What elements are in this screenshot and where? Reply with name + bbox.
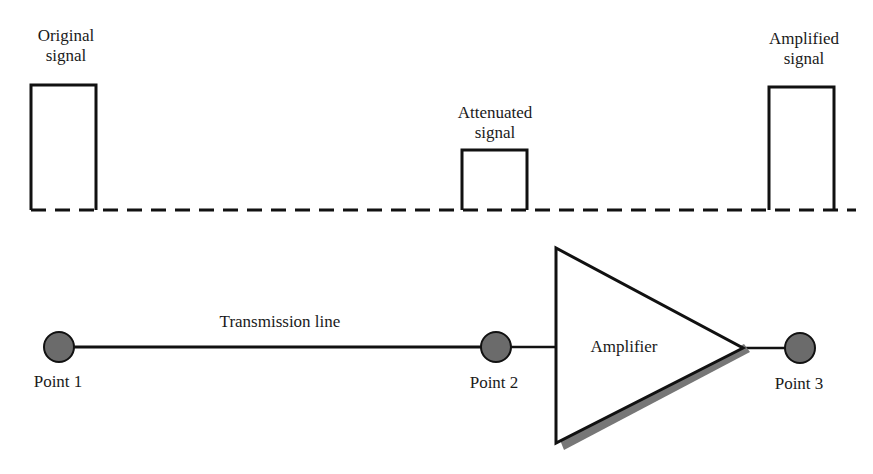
amplified-signal-label: Amplified signal [756,29,852,69]
signal-diagram [0,0,873,474]
original-signal-label-line2: signal [22,46,110,66]
point-3-node [785,333,815,363]
attenuated-signal-label-line2: signal [440,123,550,143]
attenuated-signal-pulse [462,150,527,210]
amplified-signal-label-line2: signal [756,49,852,69]
amplifier-label: Amplifier [574,337,674,357]
amplified-signal-pulse [769,87,834,210]
point-3-label: Point 3 [759,374,839,394]
transmission-line-label: Transmission line [190,312,370,332]
point-1-node [44,332,74,362]
original-signal-label-line1: Original [22,26,110,46]
original-signal-label: Original signal [22,26,110,66]
original-signal-pulse [31,85,96,210]
attenuated-signal-label: Attenuated signal [440,103,550,143]
point-1-label: Point 1 [18,372,98,392]
amplified-signal-label-line1: Amplified [756,29,852,49]
point-2-label: Point 2 [454,373,534,393]
attenuated-signal-label-line1: Attenuated [440,103,550,123]
point-2-node [481,332,511,362]
